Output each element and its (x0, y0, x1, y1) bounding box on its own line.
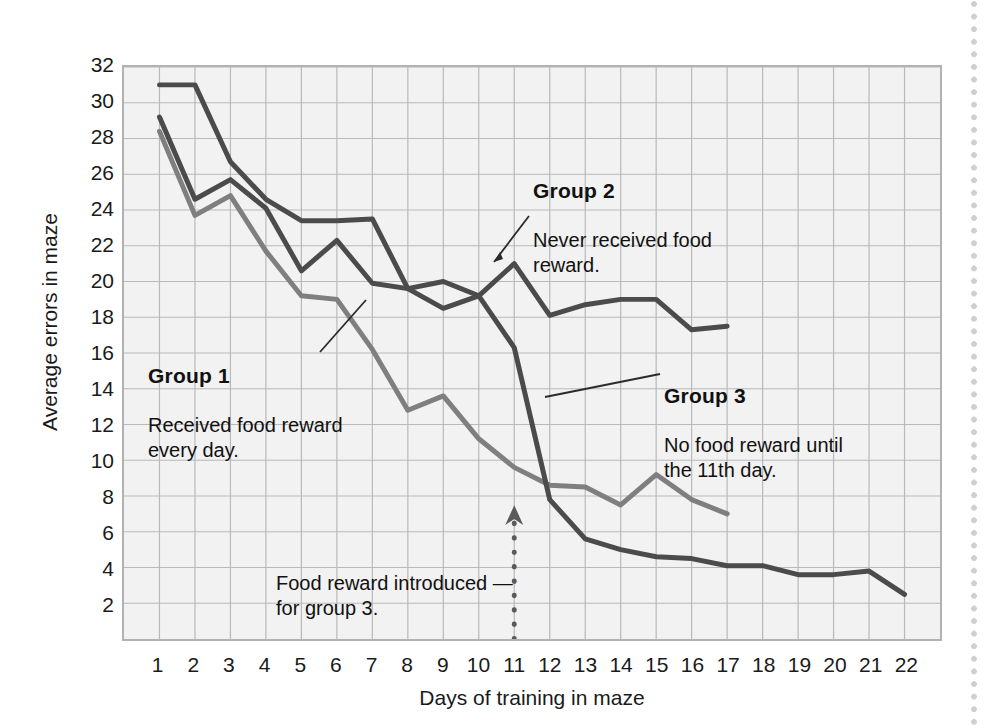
x-tick-label: 5 (280, 654, 320, 675)
x-tick-label: 9 (423, 654, 463, 675)
x-tick-label: 17 (708, 654, 748, 675)
x-axis-title: Days of training in maze (122, 686, 942, 710)
x-tick-label: 21 (851, 654, 891, 675)
figure-chart: 2468101214161820222426283032 12345678910… (0, 0, 998, 725)
x-tick-label: 22 (886, 654, 926, 675)
annotation-food-reward-marker: Food reward introduced — for group 3. (276, 571, 513, 621)
annotation-group-2-body: Never received food reward. (533, 228, 712, 278)
annotation-group-3-body: No food reward until the 11th day. (664, 433, 843, 483)
x-tick-label: 14 (601, 654, 641, 675)
x-tick-label: 18 (744, 654, 784, 675)
annotation-group-1: Group 1 Received food reward every day. (148, 338, 343, 488)
x-tick-label: 15 (637, 654, 677, 675)
y-axis-title: Average errors in maze (38, 172, 62, 472)
x-tick-label: 2 (173, 654, 213, 675)
x-tick-label: 10 (459, 654, 499, 675)
x-tick-label: 6 (316, 654, 356, 675)
annotation-group-2: Group 2 Never received food reward. (533, 153, 712, 303)
annotation-group-3: Group 3 No food reward until the 11th da… (664, 358, 843, 508)
x-tick-label: 4 (245, 654, 285, 675)
x-tick-label: 12 (530, 654, 570, 675)
x-tick-label: 1 (138, 654, 178, 675)
annotation-group-1-title: Group 1 (148, 363, 343, 388)
x-tick-label: 19 (779, 654, 819, 675)
x-tick-label: 16 (672, 654, 712, 675)
x-tick-label: 20 (815, 654, 855, 675)
x-tick-label: 3 (209, 654, 249, 675)
x-tick-label: 13 (565, 654, 605, 675)
x-tick-label: 7 (352, 654, 392, 675)
annotation-group-1-body: Received food reward every day. (148, 413, 343, 463)
x-tick-label: 11 (494, 654, 534, 675)
annotation-group-3-title: Group 3 (664, 383, 843, 408)
x-tick-label: 8 (387, 654, 427, 675)
annotation-group-2-title: Group 2 (533, 178, 712, 203)
